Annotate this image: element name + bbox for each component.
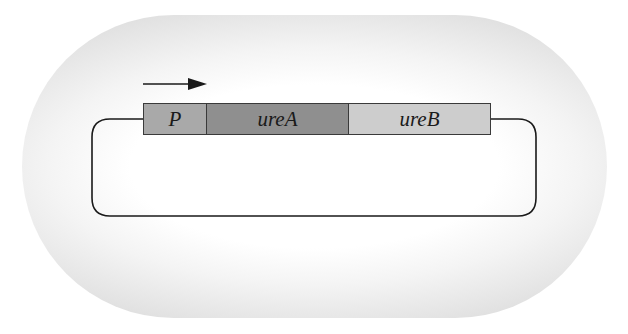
gene-box-ureA: ureA — [206, 103, 349, 135]
plasmid-diagram — [0, 0, 628, 334]
gene-box-ureB: ureB — [348, 103, 491, 135]
gene-label-ureA: ureA — [257, 107, 297, 132]
gene-box-promoter: P — [143, 103, 207, 135]
gene-label-ureB: ureB — [399, 107, 439, 132]
gene-label-promoter: P — [169, 107, 182, 132]
right-arrow-icon — [143, 78, 207, 90]
